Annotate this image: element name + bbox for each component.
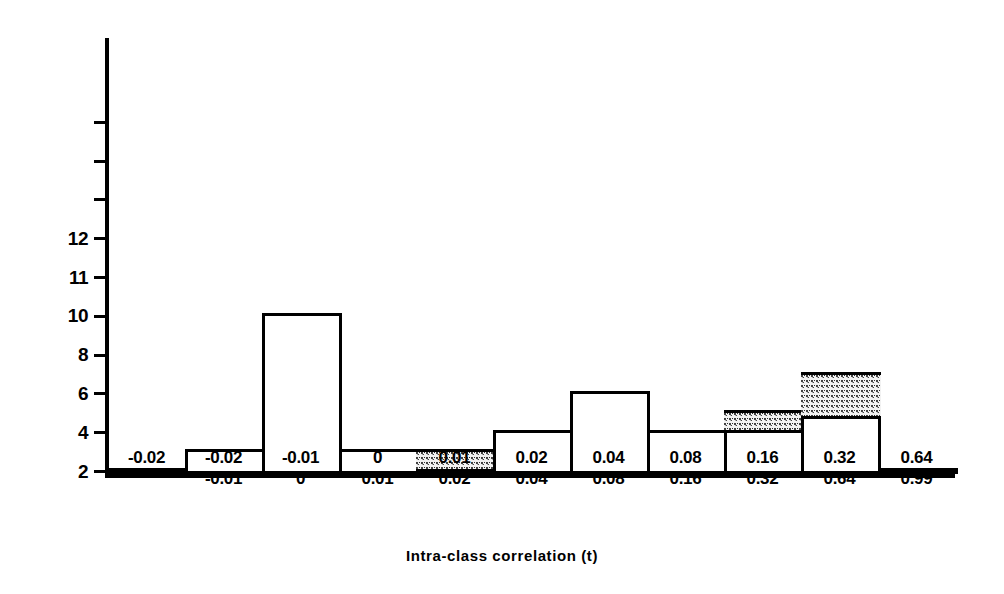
bar-shaded-segment xyxy=(724,410,804,432)
y-axis-label: No. of occurences xyxy=(0,0,70,594)
x-tick-label-group: -0.02-0.01 xyxy=(185,448,262,489)
x-tick-label-group: -0.02 xyxy=(108,448,185,469)
y-tick-minor xyxy=(94,198,105,201)
bar-shaded-segment xyxy=(801,372,881,420)
x-tick-label-group: 0.020.04 xyxy=(493,448,570,489)
x-tick-label-group: -0.010 xyxy=(262,448,339,489)
y-tick-label: 2 xyxy=(78,461,88,483)
x-tick-label-line2: 0.99 xyxy=(878,469,955,490)
x-tick-label-line2: 0.04 xyxy=(493,469,570,490)
x-tick-label-group: 00.01 xyxy=(339,448,416,489)
x-tick-label-group: 0.320.64 xyxy=(801,448,878,489)
y-tick-label: 6 xyxy=(78,383,88,405)
y-tick-12: 12 xyxy=(94,237,105,240)
x-tick-label-line1: 0.02 xyxy=(516,448,548,467)
x-tick-label-line1: -0.02 xyxy=(128,448,165,467)
x-tick-label-line1: 0.16 xyxy=(747,448,779,467)
y-tick-label: 12 xyxy=(68,228,88,250)
y-tick-label: 10 xyxy=(68,305,88,327)
y-tick-label: 11 xyxy=(69,267,88,289)
x-tick-label-line2: 0.02 xyxy=(416,469,493,490)
x-tick-label-line2: 0.64 xyxy=(801,469,878,490)
x-tick-label-line2: 0.32 xyxy=(724,469,801,490)
y-tick-minor xyxy=(94,121,105,124)
y-tick-8: 8 xyxy=(94,354,105,357)
x-tick-label-group: 0.040.08 xyxy=(570,448,647,489)
x-tick-label-line1: 0.04 xyxy=(593,448,625,467)
x-tick-label-group: 0.640.99 xyxy=(878,448,955,489)
y-tick-label: 8 xyxy=(78,344,88,366)
x-tick-label-line1: 0.08 xyxy=(670,448,702,467)
y-tick-6: 6 xyxy=(94,392,105,395)
x-tick-label-line2: 0.16 xyxy=(647,469,724,490)
x-tick-label-line1: 0.01 xyxy=(439,448,471,467)
x-tick-label-line2: 0 xyxy=(262,469,339,490)
plot-area: 2468101112 xyxy=(108,38,955,474)
y-tick-label: 4 xyxy=(78,422,88,444)
x-axis-label: Intra-class correlation (t) xyxy=(0,547,1004,564)
x-tick-label-line1: 0.64 xyxy=(901,448,933,467)
histogram-bar xyxy=(108,468,188,474)
x-tick-label-line1: 0.32 xyxy=(824,448,856,467)
y-tick-10: 10 xyxy=(94,315,105,318)
x-tick-label-line2: 0.01 xyxy=(339,469,416,490)
x-tick-label-group: 0.010.02 xyxy=(416,448,493,489)
y-tick-4: 4 xyxy=(94,431,105,434)
y-tick-11: 11 xyxy=(94,276,105,279)
y-tick-minor xyxy=(94,160,105,163)
y-tick-2: 2 xyxy=(94,470,105,473)
x-tick-label-group: 0.160.32 xyxy=(724,448,801,489)
histogram-figure: No. of occurences 2468101112 -0.02-0.02-… xyxy=(0,0,1004,594)
x-tick-label-line1: -0.01 xyxy=(282,448,319,467)
x-tick-label-line1: -0.02 xyxy=(205,448,242,467)
x-tick-label-line1: 0 xyxy=(373,448,382,467)
x-axis-label-text: Intra-class correlation (t) xyxy=(406,547,598,564)
x-tick-label-line2: 0.08 xyxy=(570,469,647,490)
x-tick-label-group: 0.080.16 xyxy=(647,448,724,489)
x-tick-label-line2: -0.01 xyxy=(185,469,262,490)
y-axis-spine xyxy=(105,38,109,474)
